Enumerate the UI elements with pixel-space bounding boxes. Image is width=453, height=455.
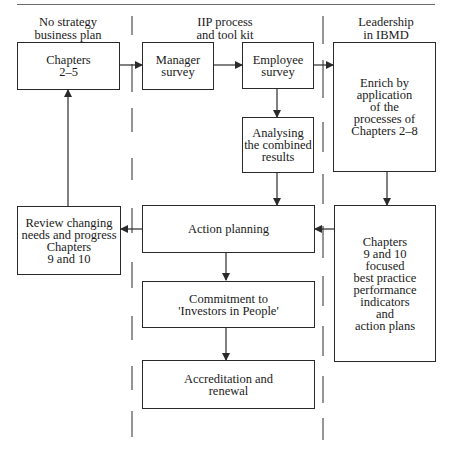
box-chapters-2-5: Chapters 2–5 [17, 42, 120, 90]
box-employee-survey: Employee survey [242, 42, 314, 89]
box-chapters-9-10-indicators: Chapters 9 and 10 focused best practice … [334, 205, 436, 362]
box-enrich-chapters-2-8: Enrich by application of the processes o… [333, 42, 436, 172]
figure-caption-clipped [17, 451, 435, 455]
box-manager-survey: Manager survey [142, 42, 214, 90]
box-commitment-iip: Commitment to 'Investors in People' [142, 281, 315, 328]
box-review-progress: Review changing needs and progress Chapt… [17, 206, 121, 275]
box-action-planning: Action planning [142, 205, 315, 253]
box-accreditation-renewal: Accreditation and renewal [142, 360, 315, 409]
box-analysing-results: Analysing the combined results [242, 117, 314, 173]
